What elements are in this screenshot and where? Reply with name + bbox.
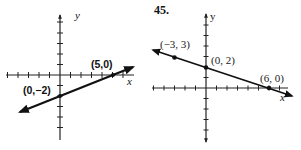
graph-2: y x (−3, 3) (0, 2) (6, 0) [152, 10, 292, 142]
point-6-0 [267, 86, 272, 91]
graphs-canvas: y x (5,0) (0,−2) [0, 0, 301, 150]
x-axis-label: x [126, 75, 132, 87]
x-axis-label: x [279, 91, 285, 103]
point-label-0-neg2: (0,−2) [23, 84, 51, 96]
point-0-2 [204, 65, 209, 70]
y-axis-label: y [210, 10, 216, 22]
graph-1: y x (5,0) (0,−2) [6, 9, 134, 140]
point-5-0 [111, 73, 115, 77]
point-label-6-0: (6, 0) [260, 72, 284, 85]
point-0-neg2 [58, 94, 62, 98]
point-label-neg3-3: (−3, 3) [160, 38, 190, 51]
y-axis-label: y [74, 9, 80, 21]
point-neg3-3 [172, 55, 177, 60]
point-label-0-2: (0, 2) [211, 54, 235, 67]
point-label-5-0: (5,0) [91, 58, 113, 70]
